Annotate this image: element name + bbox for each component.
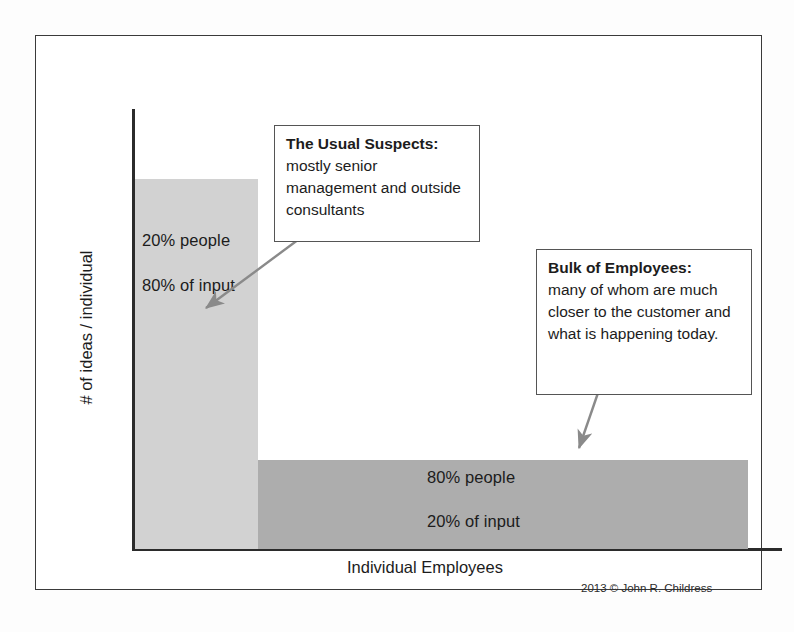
page-canvas: 20% people 80% of input 80% people 20% o… bbox=[0, 0, 794, 632]
figure-frame: 20% people 80% of input 80% people 20% o… bbox=[35, 35, 762, 590]
y-axis-title: # of ideas / individual bbox=[77, 218, 96, 438]
bar-label-right-people: 80% people bbox=[427, 468, 515, 487]
callout-bulk-employees-title: Bulk of Employees: bbox=[548, 257, 741, 279]
bar-label-right-input: 20% of input bbox=[427, 512, 520, 531]
callout-bulk-employees: Bulk of Employees: many of whom are much… bbox=[536, 249, 752, 395]
callout-usual-suspects: The Usual Suspects: mostly senior manage… bbox=[274, 125, 480, 242]
bar-label-left-people: 20% people bbox=[142, 231, 230, 250]
copyright-credit: 2013 © John R. Childress bbox=[581, 582, 712, 594]
callout-usual-suspects-body: mostly senior management and outside con… bbox=[286, 155, 469, 221]
bar-label-left-input: 80% of input bbox=[142, 276, 235, 295]
callout-usual-suspects-title: The Usual Suspects: bbox=[286, 133, 469, 155]
x-axis-title: Individual Employees bbox=[347, 558, 503, 577]
callout-bulk-employees-body: many of whom are much closer to the cust… bbox=[548, 279, 741, 345]
